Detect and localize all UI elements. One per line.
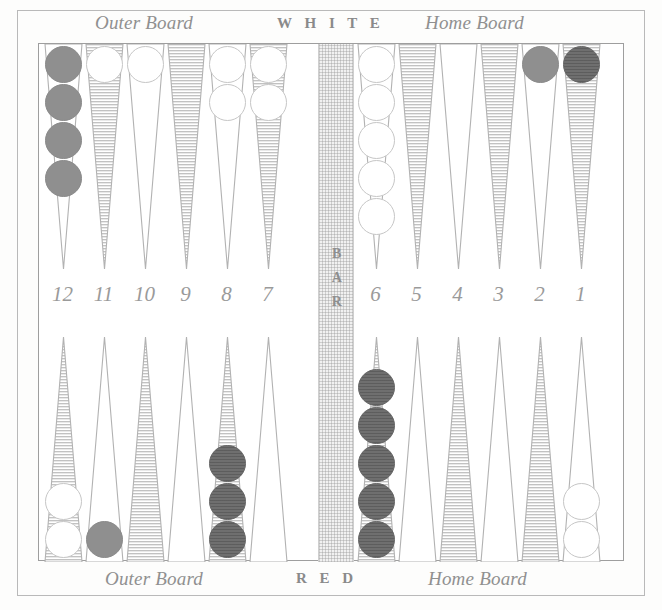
point-number-9: 9: [166, 282, 206, 307]
checker-white[interactable]: [563, 521, 600, 558]
point-number-10: 10: [125, 282, 165, 307]
point-top-9[interactable]: [166, 44, 207, 269]
point-number-1: 1: [561, 282, 601, 307]
checker-white[interactable]: [358, 122, 395, 159]
checker-dark[interactable]: [563, 46, 600, 83]
label-player-white: W H I T E: [277, 15, 384, 32]
point-top-4[interactable]: [438, 44, 479, 269]
bar-letter-b: B: [319, 242, 355, 266]
checker-white[interactable]: [358, 46, 395, 83]
checker-white[interactable]: [250, 84, 287, 121]
caption-top-outer-board: Outer Board: [95, 12, 193, 34]
backgammon-board: Outer Board W H I T E Home Board Outer B…: [0, 0, 662, 610]
checker-white[interactable]: [358, 84, 395, 121]
checker-dark[interactable]: [209, 521, 246, 558]
label-player-red: R E D: [296, 570, 358, 587]
checker-dark[interactable]: [209, 445, 246, 482]
checker-white[interactable]: [127, 46, 164, 83]
point-number-strip: 121110987654321: [38, 282, 624, 318]
checker-white[interactable]: [45, 483, 82, 520]
point-number-6: 6: [356, 282, 396, 307]
checker-white[interactable]: [250, 46, 287, 83]
point-bottom-5[interactable]: [397, 337, 438, 562]
checker-gray[interactable]: [45, 122, 82, 159]
point-number-8: 8: [207, 282, 247, 307]
point-number-4: 4: [438, 282, 478, 307]
checker-gray[interactable]: [45, 46, 82, 83]
checker-white[interactable]: [86, 46, 123, 83]
point-top-3[interactable]: [479, 44, 520, 269]
point-bottom-4[interactable]: [438, 337, 479, 562]
checker-gray[interactable]: [45, 160, 82, 197]
point-bottom-7[interactable]: [248, 337, 289, 562]
point-number-3: 3: [479, 282, 519, 307]
checker-white[interactable]: [358, 160, 395, 197]
checker-white[interactable]: [563, 483, 600, 520]
caption-top-home-board: Home Board: [425, 12, 524, 34]
checker-dark[interactable]: [358, 369, 395, 406]
checker-dark[interactable]: [358, 445, 395, 482]
checker-white[interactable]: [209, 84, 246, 121]
checker-gray[interactable]: [86, 521, 123, 558]
caption-bottom-outer-board: Outer Board: [105, 568, 203, 590]
checker-white[interactable]: [209, 46, 246, 83]
point-top-5[interactable]: [397, 44, 438, 269]
point-number-11: 11: [84, 282, 124, 307]
point-number-5: 5: [397, 282, 437, 307]
checker-dark[interactable]: [209, 483, 246, 520]
point-bottom-10[interactable]: [125, 337, 166, 562]
caption-bottom-home-board: Home Board: [428, 568, 527, 590]
checker-white[interactable]: [358, 198, 395, 235]
point-bottom-9[interactable]: [166, 337, 207, 562]
point-number-12: 12: [43, 282, 83, 307]
checker-gray[interactable]: [522, 46, 559, 83]
point-number-7: 7: [248, 282, 288, 307]
checker-dark[interactable]: [358, 521, 395, 558]
checker-dark[interactable]: [358, 483, 395, 520]
point-bottom-3[interactable]: [479, 337, 520, 562]
checker-white[interactable]: [45, 521, 82, 558]
point-number-2: 2: [520, 282, 560, 307]
checker-gray[interactable]: [45, 84, 82, 121]
point-bottom-2[interactable]: [520, 337, 561, 562]
checker-dark[interactable]: [358, 407, 395, 444]
